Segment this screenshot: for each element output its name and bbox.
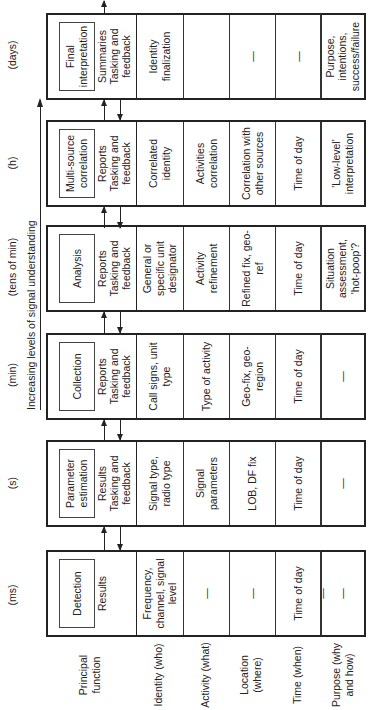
identity-cell: Identity finalization xyxy=(137,15,184,98)
arrow-right-icon xyxy=(104,207,105,228)
activity-cell: Type of activity xyxy=(184,335,230,418)
activity-cell: Signal parameters xyxy=(184,442,230,525)
timescale-label: (min) xyxy=(6,330,19,420)
output-label: Reports xyxy=(96,227,108,310)
arrow-left-icon xyxy=(120,207,121,228)
output-label: Summaries xyxy=(96,15,108,98)
timescale-label: (days) xyxy=(6,10,19,100)
stage-parameter-estimation: Parameter estimation Results Tasking and… xyxy=(46,440,322,527)
time-cell: Time of day xyxy=(276,122,322,205)
function-name: Collection xyxy=(59,342,95,411)
location-cell: Refined fix, geo-ref xyxy=(230,227,276,310)
activity-cell: Activity refinement xyxy=(184,227,230,310)
arrow-right-icon xyxy=(104,420,105,440)
purpose-cell: — xyxy=(320,440,366,527)
timescale-label: (tens of min) xyxy=(6,222,19,312)
principal-function-cell: Detection Results xyxy=(48,552,137,635)
flow-labels: Results xyxy=(96,552,108,635)
timescale-label: (s) xyxy=(6,438,19,528)
location-cell: — xyxy=(230,15,276,98)
arrow-left-icon xyxy=(120,312,121,333)
location-cell: Geo-fix, geo-region xyxy=(230,335,276,418)
purpose-cell: Situation assessment, 'hot-poop'? xyxy=(320,225,366,312)
location-cell: Correlation with other sources xyxy=(230,122,276,205)
arrow-right-icon xyxy=(40,100,41,410)
row-label-purpose: Purpose (why and how) xyxy=(320,640,366,710)
purpose-cell: — xyxy=(320,333,366,420)
arrow-left-icon xyxy=(120,527,121,550)
identity-cell: Frequency, channel, signal level xyxy=(137,552,184,635)
function-name: Analysis xyxy=(59,234,95,303)
purpose-cell: — xyxy=(320,550,366,637)
arrow-right-icon xyxy=(104,1,105,13)
row-label-principal-function: Principal function xyxy=(60,640,120,710)
stage-collection: Collection Reports Tasking and feedback … xyxy=(46,333,322,420)
flow-labels: Reports Tasking and feedback xyxy=(96,122,132,205)
feedback-label: Tasking and feedback xyxy=(108,15,132,98)
row-label-time: Time (when) xyxy=(274,640,320,710)
principal-function-cell: Analysis Reports Tasking and feedback xyxy=(48,227,137,310)
stage-multi-source-correlation: Multi-source correlation Reports Tasking… xyxy=(46,120,322,207)
principal-function-cell: Final interpretation Summaries Tasking a… xyxy=(48,15,137,98)
flow-labels: Results Tasking and feedback xyxy=(96,442,132,525)
stage-final-interpretation: Final interpretation Summaries Tasking a… xyxy=(46,13,322,100)
feedback-label: Tasking and feedback xyxy=(108,122,132,205)
axis-label: Increasing levels of signal understandin… xyxy=(25,220,38,410)
function-name: Parameter estimation xyxy=(59,449,95,518)
arrow-right-icon xyxy=(104,527,105,550)
row-label-activity: Activity (what) xyxy=(182,640,228,710)
identity-cell: Correlated identity xyxy=(137,122,184,205)
principal-function-cell: Parameter estimation Results Tasking and… xyxy=(48,442,137,525)
time-cell: Time of day xyxy=(276,442,322,525)
identity-cell: General or specific unit designator xyxy=(137,227,184,310)
time-cell: Time of day xyxy=(276,335,322,418)
purpose-cell: 'Low-level' interpretation xyxy=(320,120,366,207)
output-label: Results xyxy=(96,552,108,635)
activity-cell: — xyxy=(184,552,230,635)
flow-labels: Summaries Tasking and feedback xyxy=(96,15,132,98)
feedback-label: Tasking and feedback xyxy=(108,442,132,525)
arrow-left-icon xyxy=(120,420,121,440)
flow-labels: Reports Tasking and feedback xyxy=(96,335,132,418)
feedback-label: Tasking and feedback xyxy=(108,335,132,418)
principal-function-cell: Collection Reports Tasking and feedback xyxy=(48,335,137,418)
identity-cell: Call signs, unit type xyxy=(137,335,184,418)
arrow-right-icon xyxy=(104,100,105,120)
time-cell: — xyxy=(276,15,322,98)
flow-labels: Reports Tasking and feedback xyxy=(96,227,132,310)
purpose-cell: Purpose, intentions, success/failure xyxy=(320,13,366,100)
function-name: Final interpretation xyxy=(59,22,95,91)
stage-detection: Detection Results Frequency, channel, si… xyxy=(46,550,322,637)
function-name: Multi-source correlation xyxy=(59,129,95,198)
location-cell: LOB, DF fix xyxy=(230,442,276,525)
identity-cell: Signal type, radio type xyxy=(137,442,184,525)
signal-understanding-diagram: (ms) (s) (min) (tens of min) (h) (days) … xyxy=(0,0,380,710)
output-label: Reports xyxy=(96,335,108,418)
arrow-left-icon xyxy=(120,100,121,120)
output-label: Results xyxy=(96,442,108,525)
timescale-label: (ms) xyxy=(6,550,19,640)
time-cell: Time of day xyxy=(276,227,322,310)
principal-function-cell: Multi-source correlation Reports Tasking… xyxy=(48,122,137,205)
activity-cell xyxy=(184,15,230,98)
location-cell: — xyxy=(230,552,276,635)
arrow-right-icon xyxy=(104,312,105,333)
activity-cell: Activities correlation xyxy=(184,122,230,205)
row-label-location: Location (where) xyxy=(228,640,274,710)
stage-analysis: Analysis Reports Tasking and feedback Ge… xyxy=(46,225,322,312)
feedback-label: Tasking and feedback xyxy=(108,227,132,310)
output-label: Reports xyxy=(96,122,108,205)
row-label-identity: Identity (who) xyxy=(135,640,182,710)
function-name: Detection xyxy=(59,559,95,628)
timescale-label: (h) xyxy=(6,118,19,208)
